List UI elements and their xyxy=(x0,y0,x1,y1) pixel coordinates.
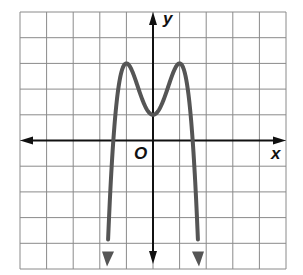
x-axis-label: x xyxy=(270,144,282,163)
y-axis-bottom-arrow-icon xyxy=(149,251,157,264)
curve-right-arrow-icon xyxy=(192,251,204,266)
y-axis-label: y xyxy=(162,9,174,28)
curve-left-arrow-icon xyxy=(102,251,114,266)
polynomial-graph: y x O xyxy=(0,0,303,275)
axes xyxy=(20,12,286,264)
x-axis-left-arrow-icon xyxy=(20,137,33,145)
y-axis-top-arrow-icon xyxy=(149,12,157,25)
origin-label: O xyxy=(134,144,147,163)
